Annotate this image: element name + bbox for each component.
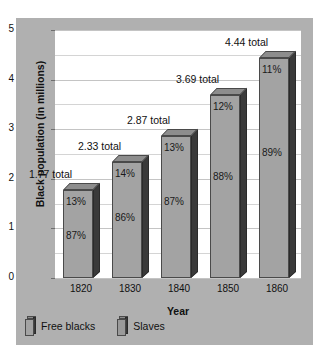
y-axis-tick-mark	[51, 278, 55, 279]
x-axis-tick-1860: 1860	[266, 283, 288, 294]
x-axis-tick-1840: 1840	[168, 283, 190, 294]
bar-front-face	[210, 95, 240, 278]
y-axis-tick-label: 5	[0, 23, 14, 34]
chart-legend: Free blacks Slaves	[25, 316, 187, 336]
legend-label-free-blacks: Free blacks	[41, 320, 95, 332]
legend-swatch-free-blacks	[25, 316, 34, 336]
y-axis-tick-label: 2	[0, 172, 14, 183]
bar-percent-free-1820: 13%	[66, 196, 86, 207]
bar-top-face	[259, 51, 296, 58]
gridline	[55, 278, 301, 279]
bar-top-face	[161, 129, 198, 136]
y-axis-tick-mark	[51, 80, 55, 81]
legend-label-slaves: Slaves	[133, 320, 165, 332]
y-axis-tick-label: 1	[0, 221, 14, 232]
bar-percent-slaves-1820: 87%	[66, 230, 86, 241]
legend-item-free-blacks[interactable]: Free blacks	[25, 316, 95, 336]
bar-percent-free-1840: 13%	[164, 142, 184, 153]
bar-total-label-1820: 1.77 total	[29, 168, 72, 180]
bar-1850[interactable]	[210, 95, 240, 278]
y-axis-tick-label: 0	[0, 271, 14, 282]
bar-percent-free-1830: 14%	[115, 168, 135, 179]
legend-swatch-slaves	[117, 316, 126, 336]
bar-side-face	[142, 155, 149, 278]
bar-total-label-1840: 2.87 total	[127, 114, 170, 126]
bar-percent-slaves-1850: 88%	[213, 171, 233, 182]
bar-total-label-1830: 2.33 total	[78, 140, 121, 152]
y-axis-tick-mark	[51, 228, 55, 229]
y-axis-title: Black population (in millions)	[34, 44, 46, 224]
y-axis-tick-mark	[51, 129, 55, 130]
x-axis-tick-1830: 1830	[119, 283, 141, 294]
bar-total-label-1860: 4.44 total	[225, 36, 268, 48]
bar-percent-slaves-1840: 87%	[164, 196, 184, 207]
bar-total-label-1850: 3.69 total	[176, 73, 219, 85]
gridline	[55, 30, 301, 31]
y-axis-tick-mark	[51, 30, 55, 31]
bar-front-face	[259, 58, 289, 278]
y-axis-tick-label: 3	[0, 122, 14, 133]
bar-front-face	[161, 136, 191, 278]
bar-percent-slaves-1860: 89%	[262, 147, 282, 158]
chart-figure: Black population (in millions) 01234513%…	[16, 18, 313, 345]
bar-percent-slaves-1830: 86%	[115, 212, 135, 223]
bar-side-face	[93, 183, 100, 278]
y-axis-tick-label: 4	[0, 73, 14, 84]
x-axis-tick-1820: 1820	[70, 283, 92, 294]
legend-item-slaves[interactable]: Slaves	[117, 316, 165, 336]
bar-side-face	[289, 50, 296, 278]
bar-percent-free-1860: 11%	[262, 64, 281, 75]
bar-side-face	[191, 128, 198, 278]
bar-1840[interactable]	[161, 136, 191, 278]
bar-1860[interactable]	[259, 58, 289, 278]
bar-side-face	[240, 88, 247, 278]
x-axis-tick-1850: 1850	[217, 283, 239, 294]
bar-percent-free-1850: 12%	[213, 101, 233, 112]
plot-area: 01234513%87%1.77 total14%86%2.33 total13…	[55, 30, 301, 278]
